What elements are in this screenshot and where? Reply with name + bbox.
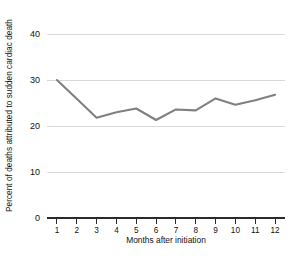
x-axis-tick-label: 4 (114, 226, 119, 235)
x-axis-tick-label: 12 (271, 226, 281, 235)
x-axis-tickmarks (57, 219, 275, 224)
y-axis-tick-label: 40 (30, 29, 40, 39)
x-axis-tick-label: 10 (231, 226, 241, 235)
chart-figure: Percent of deaths attributed to sudden c… (0, 0, 294, 266)
y-axis-tick-label: 20 (30, 121, 40, 131)
x-axis-tick-label: 11 (251, 226, 260, 235)
y-axis-tick-label: 10 (30, 167, 40, 177)
y-axis-tick-label: 30 (30, 75, 40, 85)
x-axis-tick-labels: 123456789101112 (55, 226, 280, 235)
x-axis-title: Months after initiation (126, 235, 206, 245)
x-axis-tick-label: 3 (94, 226, 99, 235)
y-axis-tick-labels: 010203040 (30, 29, 40, 223)
x-axis-tick-label: 6 (154, 226, 159, 235)
gridlines-group (47, 34, 285, 172)
y-axis-tick-label: 0 (35, 213, 40, 223)
x-axis-tick-label: 2 (74, 226, 79, 235)
data-series-line (57, 80, 275, 120)
chart-plot-area: 010203040 123456789101112 Months after i… (0, 0, 294, 266)
x-axis-tick-label: 7 (174, 226, 179, 235)
x-axis-tick-label: 8 (193, 226, 198, 235)
x-axis-tick-label: 1 (55, 226, 60, 235)
x-axis-tick-label: 5 (134, 226, 139, 235)
x-axis-tick-label: 9 (213, 226, 218, 235)
